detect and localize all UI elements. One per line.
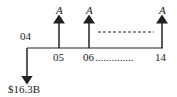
cash-flow-diagram: A A A 04 05 06 .............. 14 $16.3B bbox=[0, 0, 177, 97]
period-label-06: 06 bbox=[83, 51, 95, 63]
diagram-canvas: A A A 04 05 06 .............. 14 $16.3B bbox=[0, 0, 177, 97]
outflow-label: $16.3B bbox=[8, 83, 40, 95]
period-dots: .............. bbox=[95, 51, 134, 63]
start-period-label: 04 bbox=[20, 30, 32, 42]
annuity-label-14: A bbox=[158, 4, 166, 16]
annuity-label-05: A bbox=[55, 4, 63, 16]
annuity-label-06: A bbox=[85, 4, 93, 16]
period-label-05: 05 bbox=[53, 51, 65, 63]
period-label-14: 14 bbox=[155, 51, 167, 63]
